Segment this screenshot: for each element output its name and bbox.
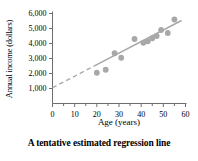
data-point (118, 55, 124, 61)
data-points-layer (94, 17, 177, 76)
regression-chart-figure: Annual income (dollars) 1,0002,0003,0004… (0, 0, 198, 161)
axes-layer (49, 12, 187, 108)
data-point (172, 17, 178, 23)
data-point (112, 50, 118, 56)
y-axis-tick-label: 2,000 (29, 69, 47, 78)
y-axis-tick-label: 4,000 (29, 39, 47, 48)
data-point (154, 33, 160, 39)
data-point (94, 70, 100, 76)
regression-line-extrapolated (53, 65, 97, 88)
y-axis-tick-label: 6,000 (29, 9, 47, 18)
y-axis-tick-label: 3,000 (29, 54, 47, 63)
y-axis-tick-label: 5,000 (29, 24, 47, 33)
data-point (158, 27, 164, 33)
data-point (132, 36, 138, 42)
y-axis-tick-label: 1,000 (29, 84, 47, 93)
x-axis-title: Age (years) (40, 117, 198, 127)
data-point (165, 30, 171, 36)
regression-line-fitted (97, 21, 181, 65)
figure-caption: A tentative estimated regression line (0, 138, 198, 148)
data-point (103, 67, 109, 73)
plot-area: 1,0002,0003,0004,0005,0006,0000102030405… (0, 0, 198, 120)
